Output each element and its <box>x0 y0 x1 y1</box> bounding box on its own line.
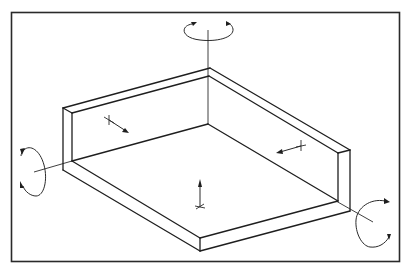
tray-body <box>63 68 350 251</box>
rotation-vertical-axis-icon <box>184 21 233 41</box>
floor-front-right-bottom <box>200 211 350 251</box>
tray-dof-diagram <box>0 0 408 271</box>
floor-front-left-bottom <box>63 170 200 251</box>
floor-left-crease <box>72 124 208 161</box>
right-wall-top-inner <box>209 76 338 153</box>
translation-right-wall-icon <box>276 140 306 154</box>
floor-right-crease <box>208 124 338 201</box>
right-axis-line <box>336 201 373 222</box>
translation-left-wall-icon <box>104 115 129 133</box>
translation-floor-icon <box>195 179 205 209</box>
left-wall-top-outer <box>63 68 210 108</box>
rotation-left-axis-icon <box>20 148 46 196</box>
floor-front-left-top <box>72 161 200 238</box>
left-axis-line <box>34 161 72 172</box>
diagram-frame <box>12 13 400 262</box>
left-wall-cap <box>63 108 72 113</box>
left-wall-top-inner <box>72 76 209 113</box>
rotation-right-axis-icon <box>356 198 391 247</box>
right-wall-cap <box>338 150 350 153</box>
